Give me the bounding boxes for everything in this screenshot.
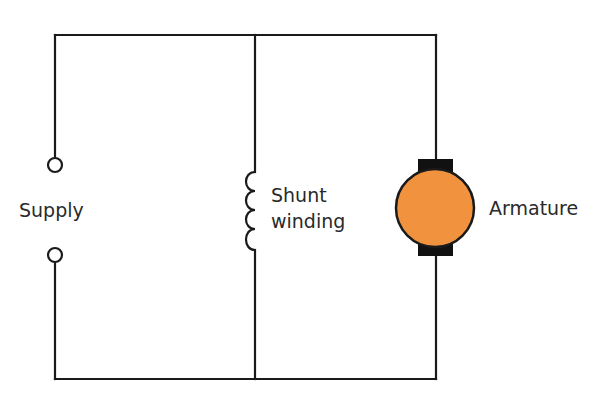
armature-label: Armature [489, 195, 578, 221]
supply-terminal-negative [48, 248, 62, 262]
shunt-winding-label-line2: winding [271, 208, 345, 234]
supply-label: Supply [19, 197, 84, 223]
shunt-winding-label-line1: Shunt [271, 182, 345, 208]
supply-terminal-positive [48, 158, 62, 172]
armature-icon [396, 169, 474, 247]
shunt-winding-label: Shunt winding [271, 182, 345, 234]
wires [55, 35, 436, 379]
shunt-winding-coil-icon [246, 172, 255, 250]
